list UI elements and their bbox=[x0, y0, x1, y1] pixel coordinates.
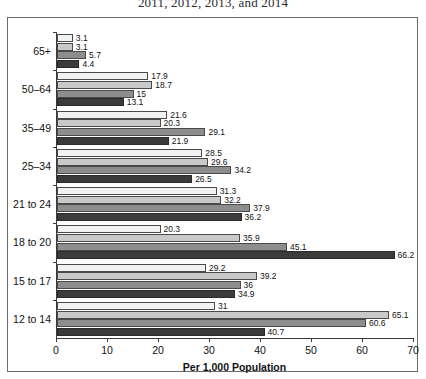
category-label: 65+ bbox=[33, 45, 51, 57]
bar-row: 39.2 bbox=[57, 272, 414, 280]
x-axis-tick bbox=[362, 338, 363, 342]
bar-value-label: 39.2 bbox=[260, 271, 277, 281]
y-axis-tick bbox=[53, 185, 57, 186]
bar[interactable] bbox=[57, 243, 287, 251]
bar-row: 18.7 bbox=[57, 81, 414, 89]
x-axis-tick bbox=[260, 338, 261, 342]
bar-group: 15 to 1729.239.23634.9 bbox=[57, 264, 414, 298]
bar-value-label: 20.3 bbox=[164, 118, 181, 128]
plot-area: 65+3.13.15.74.450–6417.918.71513.135–492… bbox=[56, 32, 413, 338]
bar-row: 29.2 bbox=[57, 264, 414, 272]
bar-row: 36.2 bbox=[57, 213, 414, 221]
bar-value-label: 40.7 bbox=[268, 327, 285, 337]
bar-value-label: 35.9 bbox=[243, 233, 260, 243]
bar-row: 3.1 bbox=[57, 43, 414, 51]
bar[interactable] bbox=[57, 225, 161, 233]
x-axis-tick-label: 50 bbox=[305, 344, 317, 356]
bar-row: 37.9 bbox=[57, 204, 414, 212]
bar[interactable] bbox=[57, 60, 79, 68]
x-axis-tick-label: 30 bbox=[203, 344, 215, 356]
bar[interactable] bbox=[57, 281, 241, 289]
bar-group: 35–4921.620.329.121.9 bbox=[57, 111, 414, 145]
bar[interactable] bbox=[57, 34, 73, 42]
x-axis-tick bbox=[209, 338, 210, 342]
bar[interactable] bbox=[57, 90, 134, 98]
x-axis-tick bbox=[56, 338, 57, 342]
bar-group: 21 to 2431.332.237.936.2 bbox=[57, 187, 414, 221]
bar-row: 3.1 bbox=[57, 34, 414, 42]
bar-value-label: 60.6 bbox=[369, 318, 386, 328]
bar[interactable] bbox=[57, 111, 167, 119]
bar[interactable] bbox=[57, 72, 148, 80]
bar-value-label: 66.2 bbox=[398, 250, 415, 260]
bar[interactable] bbox=[57, 175, 192, 183]
y-axis-tick bbox=[53, 300, 57, 301]
bar-group: 65+3.13.15.74.4 bbox=[57, 34, 414, 68]
bar[interactable] bbox=[57, 251, 395, 259]
bar-group: 50–6417.918.71513.1 bbox=[57, 72, 414, 106]
x-axis-tick bbox=[158, 338, 159, 342]
x-axis-tick bbox=[413, 338, 414, 342]
bar[interactable] bbox=[57, 119, 161, 127]
x-axis-tick-label: 70 bbox=[407, 344, 419, 356]
x-axis-tick-label: 20 bbox=[152, 344, 164, 356]
bar-row: 29.1 bbox=[57, 128, 414, 136]
bar-value-label: 18.7 bbox=[155, 80, 172, 90]
category-label: 35–49 bbox=[22, 122, 51, 134]
chart-title: 2011, 2012, 2013, and 2014 bbox=[0, 0, 426, 11]
bar-value-label: 36.2 bbox=[245, 212, 262, 222]
bar[interactable] bbox=[57, 302, 215, 310]
bar[interactable] bbox=[57, 319, 366, 327]
bar[interactable] bbox=[57, 328, 265, 336]
bar[interactable] bbox=[57, 43, 73, 51]
bar[interactable] bbox=[57, 213, 242, 221]
bar[interactable] bbox=[57, 234, 240, 242]
bar-row: 5.7 bbox=[57, 51, 414, 59]
bar-value-label: 26.5 bbox=[195, 174, 212, 184]
bar[interactable] bbox=[57, 98, 124, 106]
bar-row: 15 bbox=[57, 90, 414, 98]
bar-value-label: 32.2 bbox=[224, 195, 241, 205]
bar[interactable] bbox=[57, 158, 208, 166]
bar-value-label: 20.3 bbox=[164, 224, 181, 234]
category-label: 12 to 14 bbox=[13, 313, 51, 325]
bar-value-label: 45.1 bbox=[290, 242, 307, 252]
bar[interactable] bbox=[57, 272, 257, 280]
bar-value-label: 29.6 bbox=[211, 157, 228, 167]
bar[interactable] bbox=[57, 290, 235, 298]
x-axis-tick-label: 40 bbox=[254, 344, 266, 356]
bar-group: 12 to 143165.160.640.7 bbox=[57, 302, 414, 336]
bar[interactable] bbox=[57, 149, 202, 157]
bar-value-label: 31 bbox=[218, 301, 227, 311]
bar-value-label: 34.2 bbox=[234, 165, 251, 175]
x-axis-tick bbox=[311, 338, 312, 342]
bar-row: 36 bbox=[57, 281, 414, 289]
bar-row: 13.1 bbox=[57, 98, 414, 106]
y-axis-tick bbox=[53, 70, 57, 71]
category-label: 25–34 bbox=[22, 160, 51, 172]
bar-row: 17.9 bbox=[57, 72, 414, 80]
bar-value-label: 13.1 bbox=[127, 97, 144, 107]
bar-value-label: 34.9 bbox=[238, 289, 255, 299]
bar[interactable] bbox=[57, 137, 169, 145]
bar[interactable] bbox=[57, 264, 206, 272]
bar-row: 45.1 bbox=[57, 243, 414, 251]
bar-row: 26.5 bbox=[57, 175, 414, 183]
bar-row: 4.4 bbox=[57, 60, 414, 68]
x-axis-title: Per 1,000 Population bbox=[56, 361, 413, 373]
category-label: 21 to 24 bbox=[13, 198, 51, 210]
bar[interactable] bbox=[57, 196, 221, 204]
bar-row: 34.9 bbox=[57, 290, 414, 298]
bar-value-label: 29.1 bbox=[208, 127, 225, 137]
figure-frame: 65+3.13.15.74.450–6417.918.71513.135–492… bbox=[7, 17, 418, 372]
bar[interactable] bbox=[57, 187, 217, 195]
bar[interactable] bbox=[57, 204, 250, 212]
bar-row: 20.3 bbox=[57, 119, 414, 127]
bar-value-label: 21.9 bbox=[172, 136, 189, 146]
bar-row: 34.2 bbox=[57, 166, 414, 174]
bar-value-label: 4.4 bbox=[82, 59, 94, 69]
category-label: 50–64 bbox=[22, 83, 51, 95]
x-axis-tick bbox=[107, 338, 108, 342]
bar[interactable] bbox=[57, 311, 389, 319]
bar-row: 40.7 bbox=[57, 328, 414, 336]
